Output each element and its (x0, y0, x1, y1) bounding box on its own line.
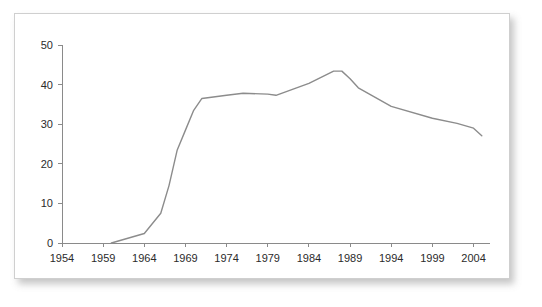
line-chart: 01020304050 1954195919641969197419791984… (0, 0, 542, 307)
x-tick-label: 1989 (338, 252, 362, 264)
x-tick-label: 1999 (420, 252, 444, 264)
y-tick-label: 30 (41, 118, 53, 130)
x-tick-label: 1974 (214, 252, 238, 264)
y-tick-label: 20 (41, 158, 53, 170)
data-series-group (111, 71, 481, 243)
y-tick-label: 0 (47, 237, 53, 249)
y-tick-label: 50 (41, 39, 53, 51)
x-tick-label: 1984 (297, 252, 321, 264)
x-tick-label: 1959 (91, 252, 115, 264)
x-tick-label: 1954 (50, 252, 74, 264)
x-tick-label: 1979 (256, 252, 280, 264)
y-tick-label: 10 (41, 197, 53, 209)
x-tick-label: 2004 (461, 252, 485, 264)
figure-root: 01020304050 1954195919641969197419791984… (0, 0, 542, 307)
data-series-line (111, 71, 481, 243)
x-tick-label: 1994 (379, 252, 403, 264)
y-axis: 01020304050 (41, 39, 62, 249)
x-tick-label: 1969 (173, 252, 197, 264)
x-tick-label: 1964 (132, 252, 156, 264)
y-tick-label: 40 (41, 79, 53, 91)
x-axis: 1954195919641969197419791984198919941999… (50, 243, 490, 264)
